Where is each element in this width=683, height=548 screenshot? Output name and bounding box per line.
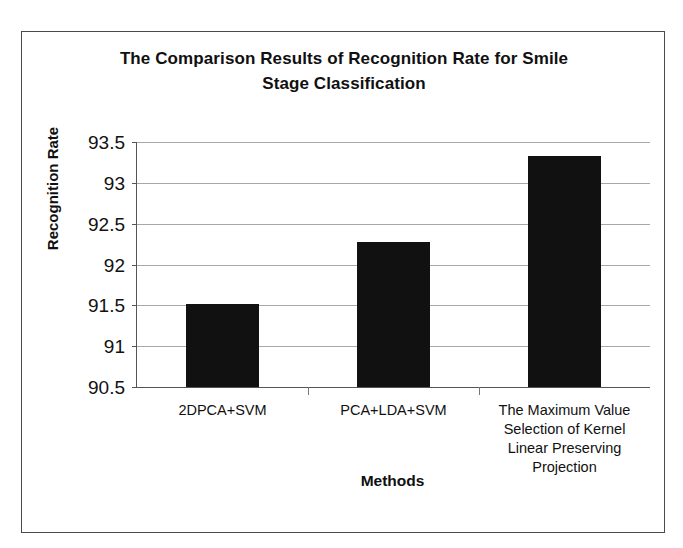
y-axis-tick	[132, 142, 137, 143]
x-axis-category-line: Selection of Kernel	[479, 420, 651, 439]
bar	[357, 242, 430, 387]
y-axis-tick	[132, 305, 137, 306]
y-axis-tick-label: 92.5	[63, 215, 125, 234]
y-axis-tick	[132, 183, 137, 184]
y-axis-tick-label: 92	[63, 256, 125, 275]
chart-title-line-1: The Comparison Results of Recognition Ra…	[82, 46, 606, 71]
y-axis-tick-label: 93	[63, 174, 125, 193]
x-axis-category-label: 2DPCA+SVM	[137, 401, 309, 420]
x-axis-category-label: PCA+LDA+SVM	[308, 401, 480, 420]
gridline	[137, 142, 650, 143]
x-axis-category-label: The Maximum ValueSelection of KernelLine…	[479, 401, 651, 477]
bar	[186, 304, 259, 387]
y-axis-tick-label: 91	[63, 337, 125, 356]
x-axis-category-line: PCA+LDA+SVM	[308, 401, 480, 420]
x-axis-title: Methods	[136, 472, 649, 490]
y-axis-tick-label: 91.5	[63, 296, 125, 315]
x-axis-category-line: The Maximum Value	[479, 401, 651, 420]
y-axis-tick	[132, 224, 137, 225]
x-axis-tick	[479, 387, 480, 395]
x-axis-category-line: Linear Preserving	[479, 439, 651, 458]
bar	[528, 156, 601, 387]
chart-title-line-2: Stage Classification	[82, 71, 606, 96]
y-axis-title: Recognition Rate	[44, 84, 61, 294]
x-axis-category-line: 2DPCA+SVM	[137, 401, 309, 420]
y-axis-tick	[132, 387, 137, 388]
y-axis-tick-label: 93.5	[63, 133, 125, 152]
x-axis-tick	[308, 387, 309, 395]
y-axis-tick-label: 90.5	[63, 378, 125, 397]
plot-area: 93.59392.59291.59190.52DPCA+SVMPCA+LDA+S…	[136, 142, 650, 388]
y-axis-tick	[132, 265, 137, 266]
figure-border: The Comparison Results of Recognition Ra…	[21, 31, 665, 533]
y-axis-tick	[132, 346, 137, 347]
chart-title: The Comparison Results of Recognition Ra…	[82, 46, 606, 96]
